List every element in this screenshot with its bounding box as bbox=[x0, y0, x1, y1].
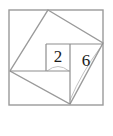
figure-svg-canvas: 2 6 bbox=[0, 0, 113, 136]
area-label-2: 2 bbox=[54, 47, 63, 66]
figure-background bbox=[0, 0, 113, 136]
geometry-figure: 2 6 bbox=[0, 0, 113, 136]
area-label-6: 6 bbox=[82, 51, 91, 70]
